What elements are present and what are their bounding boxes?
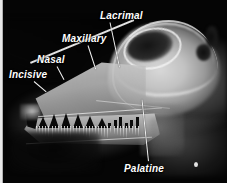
label-incisive: Incisive: [9, 69, 47, 80]
tooth-striation: [129, 126, 130, 133]
skull-radiograph-figure: Incisive Nasal Maxillary Lacrimal Palati…: [0, 0, 227, 187]
tooth-striation: [107, 126, 108, 138]
occipital-notch: [206, 26, 218, 48]
tooth-striation: [114, 126, 115, 134]
label-maxillary: Maxillary: [62, 33, 107, 44]
label-palatine: Palatine: [124, 163, 164, 174]
tooth-striation: [110, 126, 111, 133]
tooth-striation: [132, 126, 133, 134]
tooth-striation: [135, 126, 136, 135]
tooth-striation: [120, 126, 121, 136]
tooth-striation: [101, 126, 102, 136]
radiograph-plate: Incisive Nasal Maxillary Lacrimal Palati…: [0, 0, 227, 183]
plate-left-border-inner: [2, 0, 3, 183]
tooth-striation: [104, 126, 105, 137]
tooth-striation: [126, 126, 127, 138]
plate-bottom-margin: [0, 183, 227, 187]
label-lacrimal: Lacrimal: [100, 10, 143, 21]
maxillary-tooth-row: [34, 108, 140, 128]
incisive-bone-tip: [20, 104, 40, 120]
ventral-air-space: [10, 132, 100, 172]
bright-artifact-fleck: [194, 162, 198, 167]
label-nasal: Nasal: [37, 54, 65, 65]
tooth-striation: [117, 126, 118, 135]
tooth-striation: [123, 126, 124, 137]
tooth-striation: [138, 126, 139, 136]
